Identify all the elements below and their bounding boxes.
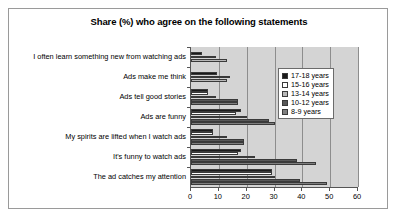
bar-group <box>191 47 358 67</box>
bar <box>191 79 227 82</box>
x-axis-tick <box>301 188 302 191</box>
bar <box>191 182 327 185</box>
x-axis-tick <box>246 188 247 191</box>
legend-swatch-icon <box>282 109 288 115</box>
y-axis-label: Ads tell good stories <box>14 92 190 101</box>
x-axis-tick-label: 20 <box>242 192 250 201</box>
x-axis-tick <box>274 188 275 191</box>
legend-label: 8-9 years <box>291 107 321 116</box>
x-axis-tick-label: 40 <box>297 192 305 201</box>
legend-label: 13-14 years <box>291 89 329 98</box>
x-axis-tick-label: 0 <box>188 192 192 201</box>
chart-legend: 17-18 years15-16 years13-14 years10-12 y… <box>278 68 334 119</box>
legend-label: 15-16 years <box>291 80 329 89</box>
x-axis-tick <box>357 188 358 191</box>
legend-swatch-icon <box>282 73 288 79</box>
y-axis-label-group: I often learn something new from watchin… <box>9 47 190 187</box>
bar-group <box>191 167 358 187</box>
gridline <box>358 47 359 187</box>
y-axis-label: Ads make me think <box>14 72 190 81</box>
x-axis-tick-label: 30 <box>269 192 277 201</box>
legend-swatch-icon <box>282 100 288 106</box>
bar <box>191 102 238 105</box>
chart-container: Share (%) who agree on the following sta… <box>8 8 388 209</box>
legend-label: 10-12 years <box>291 98 329 107</box>
legend-item: 15-16 years <box>282 80 329 89</box>
y-axis-label: I often learn something new from watchin… <box>14 52 190 61</box>
legend-item: 13-14 years <box>282 89 329 98</box>
legend-item: 17-18 years <box>282 71 329 80</box>
x-axis-tick <box>218 188 219 191</box>
y-axis-label: The ad catches my attention <box>14 172 190 181</box>
x-axis-tick <box>329 188 330 191</box>
y-axis-label: Ads are funny <box>14 112 190 121</box>
chart-title: Share (%) who agree on the following sta… <box>9 16 389 27</box>
legend-label: 17-18 years <box>291 71 329 80</box>
y-axis-label: My spirits are lifted when I watch ads <box>14 132 190 141</box>
x-axis-tick <box>190 188 191 191</box>
legend-swatch-icon <box>282 91 288 97</box>
bar <box>191 122 275 125</box>
y-axis-label: It's funny to watch ads <box>14 152 190 161</box>
legend-item: 10-12 years <box>282 98 329 107</box>
x-axis-tick-label: 60 <box>353 192 361 201</box>
bar <box>191 162 316 165</box>
bar <box>191 59 227 62</box>
legend-swatch-icon <box>282 82 288 88</box>
legend-item: 8-9 years <box>282 107 329 116</box>
x-axis-tick-label: 50 <box>325 192 333 201</box>
bar-group <box>191 147 358 167</box>
x-axis: 0102030405060 <box>190 188 357 204</box>
bar <box>191 142 244 145</box>
bar-group <box>191 127 358 147</box>
x-axis-tick-label: 10 <box>214 192 222 201</box>
